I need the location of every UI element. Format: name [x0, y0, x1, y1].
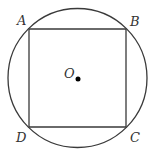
- vertex-label-b: B: [129, 14, 140, 29]
- center-label-o: O: [64, 66, 75, 81]
- vertex-label-c: C: [130, 130, 140, 145]
- vertex-label-d: D: [15, 130, 27, 145]
- center-point-o: [76, 77, 81, 82]
- geometry-diagram: A B C D O: [0, 0, 154, 151]
- vertex-label-a: A: [16, 13, 26, 28]
